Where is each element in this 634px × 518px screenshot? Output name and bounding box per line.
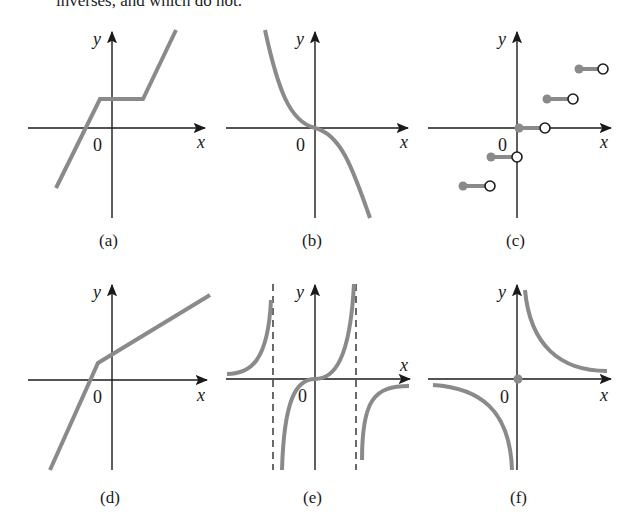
caption-f: (f) bbox=[510, 488, 527, 507]
origin-label: 0 bbox=[93, 387, 102, 407]
origin-point bbox=[514, 375, 523, 384]
graph-branch-left bbox=[227, 300, 271, 374]
caption-b: (b) bbox=[302, 231, 322, 250]
caption-c: (c) bbox=[506, 231, 525, 250]
origin-label: 0 bbox=[93, 135, 102, 155]
panel-d: y x 0 (d) bbox=[28, 282, 210, 507]
panel-b: y x 0 (b) bbox=[226, 29, 408, 250]
y-label: y bbox=[91, 29, 101, 49]
graph-branch-right bbox=[362, 386, 409, 460]
origin-label: 0 bbox=[500, 387, 509, 407]
graph-branch-middle bbox=[282, 284, 354, 470]
caption-d: (d) bbox=[100, 488, 120, 507]
caption-e: (e) bbox=[303, 488, 322, 507]
panel-e: y x 0 (e) bbox=[226, 282, 410, 507]
panel-f: y x 0 (f) bbox=[428, 282, 611, 507]
x-label: x bbox=[599, 132, 608, 152]
panel-c: y x 0 (c) bbox=[428, 29, 611, 250]
x-label: x bbox=[399, 132, 408, 152]
graph-branch-upper bbox=[525, 290, 607, 371]
panel-a: y x 0 (a) bbox=[28, 29, 205, 250]
graph-curve bbox=[265, 30, 370, 218]
figure-grid: y x 0 (a) y x 0 (b) bbox=[0, 0, 634, 518]
x-label: x bbox=[196, 132, 205, 152]
y-label: y bbox=[496, 282, 506, 302]
origin-label: 0 bbox=[296, 135, 305, 155]
y-label: y bbox=[496, 29, 506, 49]
x-label: x bbox=[399, 355, 408, 375]
x-label: x bbox=[196, 385, 205, 405]
caption-a: (a) bbox=[99, 231, 118, 250]
graph-curve bbox=[56, 30, 176, 188]
y-label: y bbox=[294, 29, 304, 49]
y-label: y bbox=[294, 282, 304, 302]
graph-curve bbox=[50, 295, 210, 470]
y-label: y bbox=[91, 282, 101, 302]
x-label: x bbox=[599, 385, 608, 405]
origin-label: 0 bbox=[498, 135, 507, 155]
origin-label: 0 bbox=[298, 386, 307, 406]
